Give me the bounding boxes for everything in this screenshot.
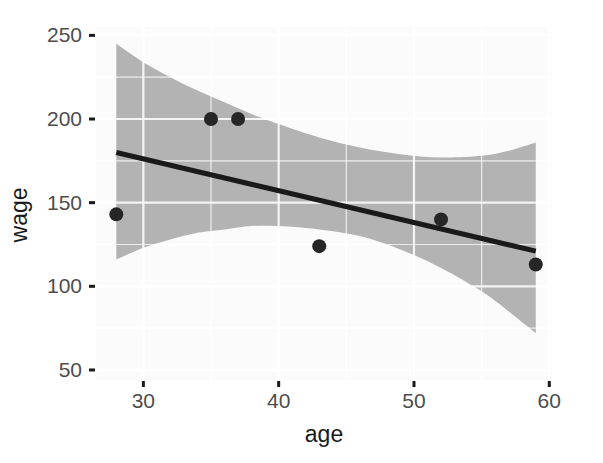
x-tick-label: 30	[132, 389, 155, 412]
data-point	[109, 207, 123, 221]
data-point	[312, 239, 326, 253]
x-tick-label: 50	[402, 389, 425, 412]
y-tick-label: 250	[47, 23, 82, 46]
x-tick-label: 40	[267, 389, 290, 412]
y-tick-label: 200	[47, 107, 82, 130]
y-axis-ticks	[89, 35, 95, 370]
chart-container: 50100150200250 30405060 wage age	[0, 0, 603, 463]
y-axis-title: wage	[6, 188, 32, 244]
y-tick-label: 100	[47, 274, 82, 297]
y-tick-label: 50	[59, 358, 82, 381]
data-point	[529, 258, 543, 272]
data-point	[434, 212, 448, 226]
x-axis-tick-labels: 30405060	[132, 389, 561, 412]
scatter-plot-with-regression: 50100150200250 30405060 wage age	[0, 0, 603, 463]
x-axis-ticks	[143, 381, 549, 387]
x-tick-label: 60	[538, 389, 561, 412]
y-tick-label: 150	[47, 191, 82, 214]
y-axis-tick-labels: 50100150200250	[47, 23, 82, 381]
x-axis-title: age	[305, 421, 343, 447]
data-point	[231, 112, 245, 126]
data-point	[204, 112, 218, 126]
